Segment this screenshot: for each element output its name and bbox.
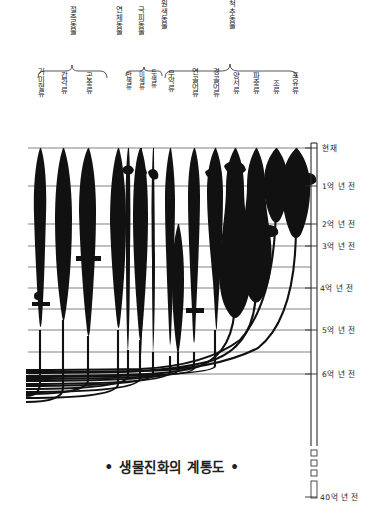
time-label-600my: 6억 년 전: [322, 369, 356, 379]
taxon-label-bansaekryu: 반색류: [124, 70, 132, 92]
taxon-label-joryu: 조류: [271, 79, 280, 95]
time-label-500my: 5억 년 전: [322, 325, 356, 335]
taxon-label-muakryu: 무악류: [166, 69, 175, 93]
taxon-label-geomihyeongryu: 거미형류: [36, 67, 45, 98]
phylum-label-geukpidongmul: 극피동물: [136, 5, 145, 35]
taxon-label-gapgakryu: 갑각류: [59, 71, 68, 95]
taxon-label-yeongolleoryu: 연골어류: [190, 67, 199, 98]
node-marker-geomihyeongryu: [34, 292, 42, 300]
branch-marker-gonchungryu: [76, 256, 101, 261]
time-label-present: 현재: [322, 144, 337, 153]
inline-label-panpiryu: 판피류: [164, 180, 172, 202]
phylum-label-wonsaekdongmul: 원색동물: [159, 0, 168, 29]
node-marker-yeongolleoryu: [186, 308, 204, 313]
time-label-200my: 2억 년 전: [322, 219, 356, 229]
time-label-4000my: 40억 년 전: [320, 492, 359, 502]
phylogenetic-tree-figure: 절족동물 연체동물 극피동물 원색동물 척추동물 거미형류 갑각류 곤충류 반색…: [0, 0, 388, 522]
branch-marker-geomihyeongryu: [32, 302, 50, 306]
taxon-label-pachungryu: 파충류: [251, 71, 260, 95]
taxon-label-dusaekryu: 두색류: [149, 69, 157, 90]
phylum-label-jeolchokdongmul: 절족동물: [68, 5, 77, 35]
phylum-label-yeonchedongmul: 연체동물: [114, 5, 123, 35]
taxon-label-gyeonggolleoryu: 경골어류: [211, 67, 220, 98]
taxon-label-misaekryu: 미색류: [137, 70, 145, 92]
phylum-label-cheoksudongmul: 척추동물: [227, 0, 236, 29]
figure-caption: • 생물진화의 계통도 •: [104, 459, 239, 475]
time-label-100my: 1억 년 전: [322, 181, 356, 191]
taxon-label-gonchungryu: 곤충류: [84, 71, 93, 95]
time-label-400my: 4억 년 전: [320, 283, 354, 293]
taxon-label-poyuryu: 포유류: [290, 71, 299, 95]
taxon-label-yangseoryu: 양서류: [231, 71, 240, 95]
tree-canvas: 절족동물 연체동물 극피동물 원색동물 척추동물 거미형류 갑각류 곤충류 반색…: [0, 0, 388, 522]
time-label-300my: 3억 년 전: [322, 241, 356, 251]
